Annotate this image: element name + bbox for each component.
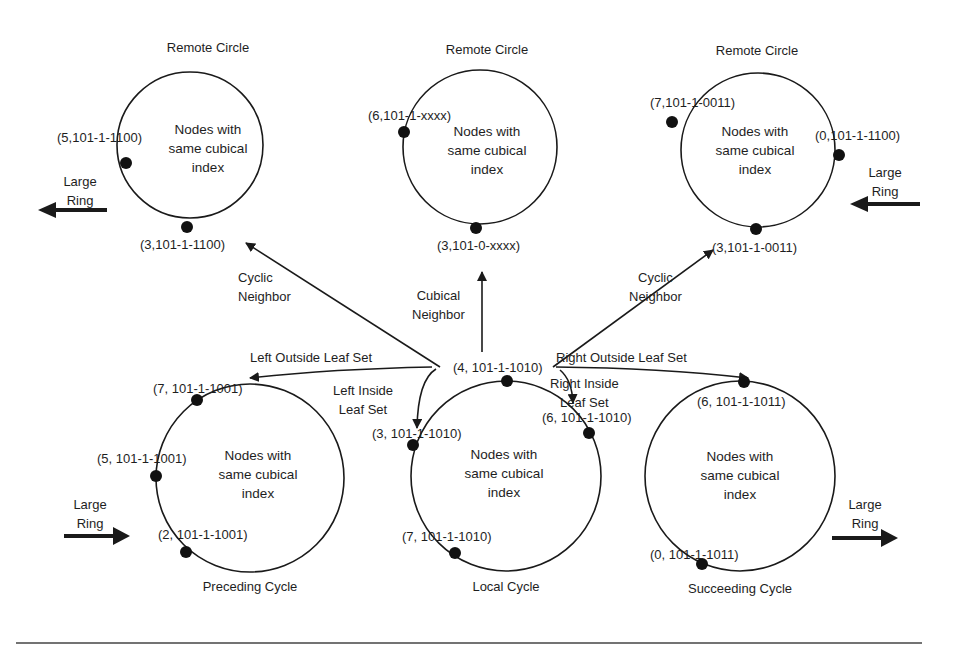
large-ring-line: Large [848,495,881,514]
right-outside-leaf-set-label: Right Outside Leaf Set [556,350,687,365]
remote-circle-1-title: Remote Circle [167,40,249,55]
remote-circle-3-inner-text: Nodes with same cubical index [695,122,815,179]
inner-text-line: same cubical [148,139,268,158]
diagram-canvas [0,0,957,648]
edge-label-line: Neighbor [238,287,291,306]
large-ring-line: Ring [73,514,106,533]
edge-label-line: Neighbor [629,287,682,306]
edge-label-line: Leaf Set [333,400,393,419]
remote-circle-2-title: Remote Circle [446,42,528,57]
inner-text-line: index [198,484,318,503]
node-label: (3,101-0-xxxx) [437,238,520,253]
node-label: (5,101-1-1100) [57,130,142,145]
inner-text-line: Nodes with [444,445,564,464]
large-ring-line: Large [868,163,901,182]
edge-label-line: Left Inside [333,381,393,400]
inner-text-line: Nodes with [198,446,318,465]
edge-label-line: Neighbor [412,305,465,324]
node-label: (3, 101-1-1010) [372,426,462,441]
node-dot [449,547,461,559]
large-ring-line: Large [73,495,106,514]
local-cycle-title: Local Cycle [472,579,539,594]
left-inside-leaf-set-label: Left Inside Leaf Set [333,381,393,419]
cyclic-neighbor-left-label: Cyclic Neighbor [238,268,291,306]
left-inside-leaf-set-arrow [417,369,436,428]
node-label: (7, 101-1-1010) [402,529,492,544]
large-ring-label: Large Ring [848,495,881,533]
succeeding-cycle-title: Succeeding Cycle [688,581,792,596]
node-dot [583,427,595,439]
node-dot [181,221,193,233]
inner-text-line: same cubical [198,465,318,484]
succeeding-cycle-inner-text: Nodes with same cubical index [680,447,800,504]
node-label: (0, 101-1-1011) [650,547,739,562]
inner-text-line: Nodes with [695,122,815,141]
node-dot [666,116,678,128]
large-ring-line: Large [63,172,96,191]
inner-text-line: same cubical [427,141,547,160]
inner-text-line: index [444,483,564,502]
large-ring-label: Large Ring [63,172,96,210]
node-dot [150,470,162,482]
edge-label-line: Cyclic [238,268,291,287]
large-ring-label: Large Ring [868,163,901,201]
inner-text-line: index [680,485,800,504]
local-cycle-inner-text: Nodes with same cubical index [444,445,564,502]
edge-label-line: Cubical [412,286,465,305]
node-dot [501,375,513,387]
node-label: (0,101-1-1100) [815,128,900,143]
node-dot [470,222,482,234]
right-inside-leaf-set-label: Right Inside Leaf Set [550,374,619,412]
inner-text-line: same cubical [680,466,800,485]
node-dot [120,157,132,169]
preceding-cycle-inner-text: Nodes with same cubical index [198,446,318,503]
local-center-node-label: (4, 101-1-1010) [453,360,543,375]
inner-text-line: index [427,160,547,179]
cyclic-neighbor-right-label: Cyclic Neighbor [629,268,682,306]
preceding-cycle-title: Preceding Cycle [203,579,298,594]
inner-text-line: index [695,160,815,179]
node-dot [180,546,192,558]
inner-text-line: same cubical [695,141,815,160]
remote-circle-1-inner-text: Nodes with same cubical index [148,120,268,177]
large-ring-label: Large Ring [73,495,106,533]
node-label: (3,101-1-1100) [140,237,225,252]
inner-text-line: index [148,158,268,177]
node-label: (2, 101-1-1001) [158,527,248,542]
node-dot [738,376,750,388]
left-outside-leaf-set-label: Left Outside Leaf Set [250,350,372,365]
large-ring-line: Ring [63,191,96,210]
cubical-neighbor-label: Cubical Neighbor [412,286,465,324]
inner-text-line: Nodes with [680,447,800,466]
edge-label-line: Cyclic [629,268,682,287]
node-label: (6, 101-1-1011) [697,394,786,409]
node-dot [398,126,410,138]
node-label: (6, 101-1-1010) [542,410,632,425]
inner-text-line: Nodes with [427,122,547,141]
large-ring-line: Ring [848,514,881,533]
node-label: (7,101-1-0011) [650,95,735,110]
node-label: (6,101-1-xxxx) [368,108,451,123]
inner-text-line: Nodes with [148,120,268,139]
left-outside-leaf-set-arrow [250,367,432,378]
node-dot [750,223,762,235]
node-label: (5, 101-1-1001) [97,451,187,466]
large-ring-line: Ring [868,182,901,201]
node-label: (7, 101-1-1001) [153,381,243,396]
remote-circle-3-title: Remote Circle [716,43,798,58]
inner-text-line: same cubical [444,464,564,483]
node-dot [833,149,845,161]
node-label: (3,101-1-0011) [712,240,797,255]
remote-circle-2-inner-text: Nodes with same cubical index [427,122,547,179]
edge-label-line: Right Inside [550,374,619,393]
